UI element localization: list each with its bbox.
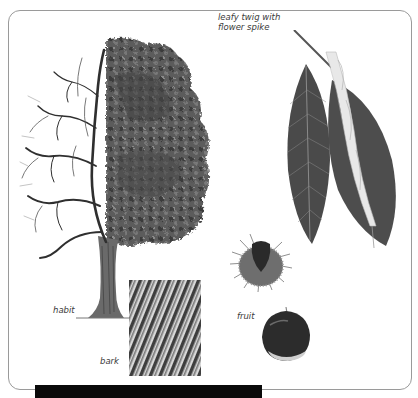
bark-illustration [129,280,201,376]
footer-caption-bar [35,385,262,398]
spiny-husk-illustration [228,232,294,292]
leafy-twig-illustration [276,30,412,250]
chestnut-fruit-illustration [260,305,312,363]
tree-habit-illustration [18,36,218,321]
label-bark: bark [100,356,119,366]
label-fruit: fruit [237,311,255,321]
label-habit: habit [53,305,75,315]
label-leafy-twig: leafy twig with flower spike [218,12,280,32]
